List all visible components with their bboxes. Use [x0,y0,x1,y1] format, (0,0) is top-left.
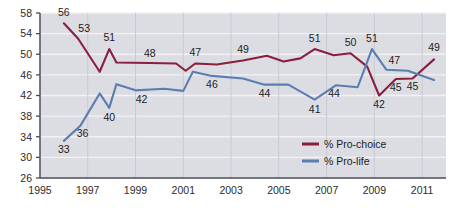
y-axis-tick-label: 42 [20,89,32,101]
data-point-label: 44 [328,87,340,99]
data-point-label: 53 [78,22,90,34]
data-point-label: 47 [388,54,400,66]
data-point-label: 56 [58,6,70,18]
line-chart: 2630343842465054581995199719992001200320… [0,0,456,210]
y-axis-tick-label: 50 [20,48,32,60]
y-axis-tick-label: 38 [20,110,32,122]
data-point-label: 45 [390,81,402,93]
x-axis-tick-label: 2009 [363,184,387,196]
x-axis-tick-label: 1997 [76,184,100,196]
legend-label-pro-choice: % Pro-choice [324,138,387,150]
data-point-label: 46 [206,78,218,90]
x-axis-tick-label: 2011 [411,184,434,196]
data-point-label: 48 [144,47,156,59]
data-point-label: 44 [259,87,271,99]
data-point-label: 51 [309,32,321,44]
data-point-label: 42 [136,93,148,105]
data-point-label: 42 [373,98,385,110]
data-point-label: 51 [103,31,115,43]
x-axis-tick-label: 1999 [124,184,148,196]
x-axis-tick-label: 2003 [219,184,243,196]
y-axis-tick-label: 54 [20,27,32,39]
y-axis-tick-label: 30 [20,151,32,163]
legend-label-pro-life: % Pro-life [324,155,370,167]
data-point-label: 49 [428,41,440,53]
y-axis-tick-label: 34 [20,131,32,143]
data-point-label: 50 [345,36,357,48]
data-point-label: 33 [58,143,70,155]
x-axis-tick-label: 1995 [28,184,52,196]
chart-canvas: 2630343842465054581995199719992001200320… [0,0,456,210]
data-point-label: 40 [103,111,115,123]
y-axis-tick-label: 26 [20,172,32,184]
x-axis-tick-label: 2001 [172,184,196,196]
data-point-label: 41 [309,103,321,115]
data-point-label: 45 [407,80,419,92]
data-point-label: 49 [237,43,249,55]
y-axis-tick-label: 46 [20,69,32,81]
y-axis-tick-label: 58 [20,7,32,19]
data-point-label: 36 [77,127,89,139]
x-axis-tick-label: 2007 [315,184,339,196]
x-axis-tick-label: 2005 [267,184,291,196]
data-point-label: 51 [366,32,378,44]
data-point-label: 47 [189,46,201,58]
